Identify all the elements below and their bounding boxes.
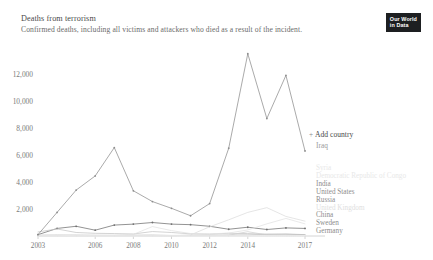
y-axis-tick-label: 10,000 — [13, 97, 34, 106]
series-point — [247, 53, 249, 55]
series-point — [266, 118, 268, 120]
legend-item-label: India — [316, 180, 331, 188]
legend-item-label: Russia — [316, 196, 335, 204]
series-point — [113, 224, 115, 226]
x-axis-tick-label: 2003 — [31, 242, 46, 250]
y-axis-tick-label: 4,000 — [16, 178, 33, 187]
legend-item-label: Democratic Republic of Congo — [316, 172, 406, 180]
x-axis-tick-label: 2012 — [202, 242, 217, 250]
legend-item-label: United Kingdom — [316, 204, 365, 212]
legend-country-list: SyriaDemocratic Republic of CongoIndiaUn… — [316, 165, 429, 236]
legend-item-selected[interactable]: Iraq — [316, 141, 429, 150]
y-axis-tick-label: 8,000 — [16, 124, 33, 133]
legend-item-label: Germany — [316, 227, 343, 235]
x-axis-tick-label: 2006 — [88, 242, 103, 250]
series-point — [132, 223, 134, 225]
x-axis-tick-label: 2010 — [164, 242, 179, 250]
add-country-button[interactable]: +Add country — [309, 130, 429, 139]
plus-icon: + — [309, 131, 313, 139]
series-point — [75, 225, 77, 227]
series-point — [171, 207, 173, 209]
series-point — [152, 222, 154, 224]
legend-item-label: United States — [316, 188, 355, 196]
series-point — [190, 224, 192, 226]
series-point — [228, 228, 230, 230]
series-point — [94, 175, 96, 177]
legend-item-label: Syria — [316, 164, 331, 172]
series-point — [37, 234, 39, 236]
x-axis-tick-label: 2014 — [241, 242, 256, 250]
series-point — [171, 223, 173, 225]
y-axis-tick-label: 2,000 — [16, 205, 33, 214]
legend-item[interactable]: Democratic Republic of Congo — [316, 173, 429, 181]
add-country-label: Add country — [315, 130, 353, 139]
series-point — [247, 226, 249, 228]
series-point — [75, 189, 77, 191]
y-axis-tick-label: 12,000 — [13, 70, 34, 79]
legend-item[interactable]: Germany — [316, 228, 429, 236]
series-point — [304, 150, 306, 152]
series-point — [132, 190, 134, 192]
series-point — [56, 211, 58, 213]
series-point — [94, 229, 96, 231]
chart-legend: +Add country Iraq SyriaDemocratic Republ… — [309, 130, 429, 236]
series-line — [38, 229, 305, 235]
x-axis-tick-label: 2017 — [298, 242, 313, 250]
series-point — [209, 203, 211, 205]
series-point — [228, 147, 230, 149]
series-line — [38, 208, 305, 236]
series-point — [113, 147, 115, 149]
series-point — [285, 74, 287, 76]
series-point — [190, 215, 192, 217]
series-point — [285, 227, 287, 229]
series-point — [266, 229, 268, 231]
y-axis-tick-label: 6,000 — [16, 151, 33, 160]
series-point — [152, 201, 154, 203]
legend-item-label: Sweden — [316, 219, 339, 227]
series-point — [304, 228, 306, 230]
x-axis-tick-label: 2008 — [126, 242, 141, 250]
legend-item-label: China — [316, 211, 333, 219]
